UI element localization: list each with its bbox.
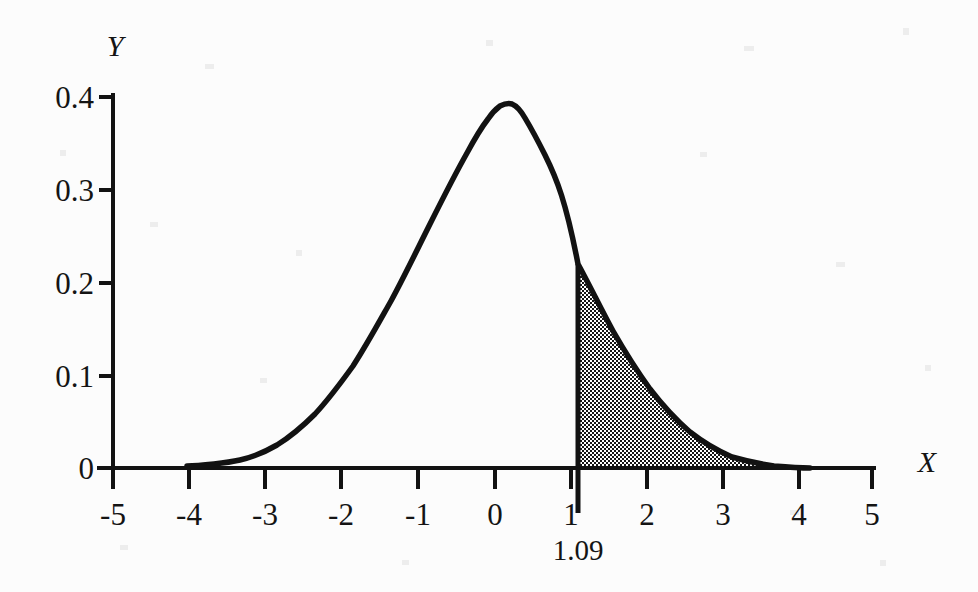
- y-tick-label-0-2: 0.2: [55, 266, 94, 301]
- y-axis-tick-labels: 0.4 0.3 0.2 0.1 0: [55, 80, 94, 486]
- shaded-tail-area: [578, 264, 790, 468]
- x-axis-label: X: [917, 445, 938, 478]
- x-tick-label-4: 4: [791, 497, 807, 532]
- y-tick-label-0-4: 0.4: [55, 80, 94, 115]
- x-tick-label-5: 5: [864, 497, 880, 532]
- x-tick-label-2: 2: [639, 497, 655, 532]
- x-axis-ticks: [113, 468, 872, 489]
- x-axis-tick-labels: -5 -4 -3 -2 -1 0 1 2 3 4 5: [100, 497, 880, 532]
- x-tick-label-minus-2: -2: [328, 497, 354, 532]
- y-axis-ticks: [99, 97, 113, 468]
- normal-distribution-figure: 0.4 0.3 0.2 0.1 0 -5 -4 -3 -2 -1 0 1 2 3…: [0, 0, 978, 592]
- chart-canvas: 0.4 0.3 0.2 0.1 0 -5 -4 -3 -2 -1 0 1 2 3…: [0, 0, 978, 592]
- x-tick-label-0: 0: [487, 497, 503, 532]
- x-tick-label-1: 1: [563, 497, 579, 532]
- normal-density-curve: [187, 104, 810, 468]
- y-tick-label-0-1: 0.1: [55, 359, 94, 394]
- y-tick-label-0-3: 0.3: [55, 173, 94, 208]
- y-axis-label: Y: [107, 29, 127, 62]
- y-tick-label-0: 0: [79, 451, 95, 486]
- cut-value-label: 1.09: [553, 534, 604, 566]
- x-tick-label-minus-4: -4: [176, 497, 202, 532]
- x-tick-label-minus-5: -5: [100, 497, 126, 532]
- x-tick-label-minus-1: -1: [405, 497, 431, 532]
- x-tick-label-minus-3: -3: [252, 497, 278, 532]
- x-tick-label-3: 3: [715, 497, 731, 532]
